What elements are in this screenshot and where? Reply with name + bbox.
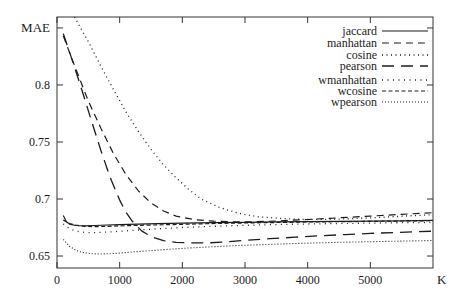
series-wpearson: [63, 240, 433, 255]
y-tick-label: 0.65: [29, 249, 50, 263]
y-tick-label: 0.8: [35, 78, 50, 92]
series-pearson: [63, 34, 433, 243]
y-tick-label: 0.7: [35, 192, 50, 206]
legend-label-wpearson: wpearson: [331, 95, 377, 109]
series-wmanhattan: [63, 222, 433, 232]
x-tick-label: 4000: [296, 273, 320, 287]
series-cosine: [75, 17, 434, 220]
y-tick-label: 0.75: [29, 135, 50, 149]
k-axis-label: K: [437, 272, 447, 287]
x-tick-label: 5000: [358, 273, 382, 287]
x-tick-label: 2000: [170, 273, 194, 287]
legend-label-pearson: pearson: [340, 59, 377, 73]
series-manhattan: [63, 36, 433, 222]
mae-axis-label: MAE: [21, 20, 50, 35]
x-tick-label: 0: [54, 273, 60, 287]
x-tick-label: 3000: [233, 273, 257, 287]
series-jaccard: [63, 216, 433, 226]
x-tick-label: 1000: [108, 273, 132, 287]
chart-canvas: 0100020003000400050000.650.70.750.8MAEKj…: [0, 0, 458, 306]
mae-vs-k-line-chart: 0100020003000400050000.650.70.750.8MAEKj…: [0, 0, 458, 306]
